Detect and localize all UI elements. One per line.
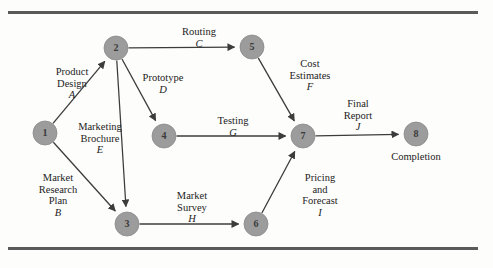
node-circle-3[interactable] — [115, 212, 139, 236]
caption-completion: Completion — [391, 151, 441, 163]
edge-label-line: Market — [177, 190, 207, 202]
edge-label-line: Marketing — [78, 121, 122, 133]
edge-label-line: Routing — [182, 26, 216, 38]
edge-label-H: MarketSurveyH — [177, 190, 207, 225]
edge-label-line: Testing — [218, 115, 249, 127]
node-circle-6[interactable] — [244, 212, 268, 236]
edge-label-F: CostEstimatesF — [290, 58, 331, 93]
edge-label-line: Research — [39, 184, 77, 196]
node-circle-1[interactable] — [33, 121, 57, 145]
edge-label-A: ProductDesignA — [56, 66, 89, 101]
activity-code-C: C — [182, 38, 216, 50]
edge-label-line: and — [302, 184, 338, 196]
edge-label-line: Brochure — [78, 133, 122, 145]
node-circle-4[interactable] — [152, 124, 176, 148]
edge-7-to-8 — [315, 134, 398, 135]
node-circle-7[interactable] — [291, 124, 315, 148]
edge-label-line: Market — [39, 172, 77, 184]
activity-code-B: B — [39, 207, 77, 219]
edge-label-line: Report — [344, 110, 373, 122]
edge-label-line: Final — [344, 98, 373, 110]
activity-code-I: I — [302, 207, 338, 219]
edge-label-E: MarketingBrochureE — [78, 121, 122, 156]
network-diagram-figure: 12345678 ProductDesignAMarketResearchPla… — [0, 0, 493, 268]
activity-code-J: J — [344, 121, 373, 133]
edge-label-line: Design — [56, 78, 89, 90]
activity-code-D: D — [143, 84, 184, 96]
edge-label-I: PricingandForecastI — [302, 172, 338, 218]
edge-label-J: FinalReportJ — [344, 98, 373, 133]
activity-code-H: H — [177, 213, 207, 225]
edge-label-G: TestingG — [218, 115, 249, 138]
edge-label-line: Forecast — [302, 195, 338, 207]
edge-label-line: Product — [56, 66, 89, 78]
edge-label-line: Cost — [290, 58, 331, 70]
activity-code-E: E — [78, 144, 122, 156]
edge-label-D: PrototypeD — [143, 72, 184, 95]
node-circle-2[interactable] — [104, 36, 128, 60]
edge-label-line: Prototype — [143, 72, 184, 84]
node-circle-8[interactable] — [404, 122, 428, 146]
activity-code-A: A — [56, 89, 89, 101]
edge-label-line: Estimates — [290, 70, 331, 82]
edge-label-B: MarketResearchPlanB — [39, 172, 77, 218]
edge-label-line: Survey — [177, 202, 207, 214]
edge-label-line: Pricing — [302, 172, 338, 184]
edge-6-to-7 — [262, 151, 295, 213]
edge-label-line: Plan — [39, 195, 77, 207]
edge-label-C: RoutingC — [182, 26, 216, 49]
node-circle-5[interactable] — [240, 35, 264, 59]
activity-code-G: G — [218, 127, 249, 139]
activity-code-F: F — [290, 81, 331, 93]
